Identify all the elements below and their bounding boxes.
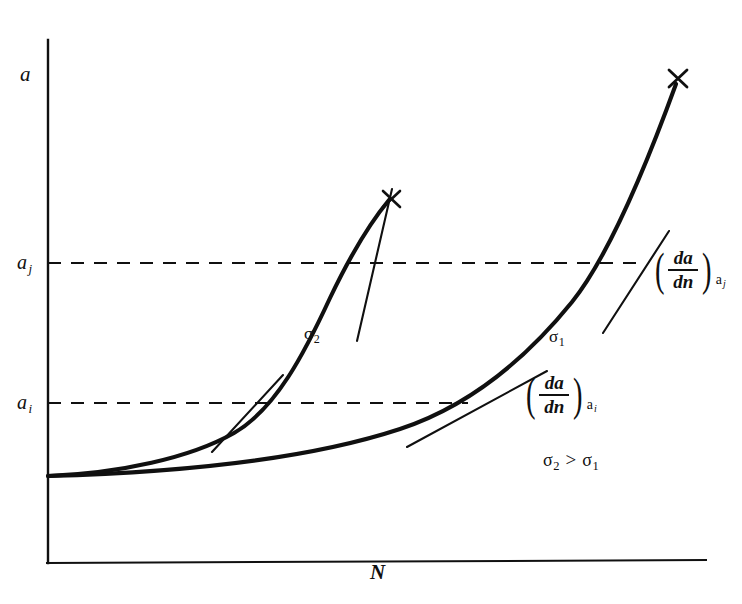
- derivative-subscript-ai-base: a: [587, 397, 593, 412]
- fraction-da-dn-ai: da dn: [538, 373, 570, 417]
- x-axis-label: N: [370, 562, 385, 583]
- derivative-subscript-aj-base: a: [716, 272, 722, 287]
- fraction-denominator-ai: dn: [543, 397, 565, 417]
- derivative-subscript-aj-sub: j: [722, 278, 726, 289]
- fraction-numerator-aj: da: [673, 248, 694, 268]
- derivative-subscript-ai-sub: i: [593, 403, 597, 414]
- curve-label-sigma1-base: σ: [549, 327, 558, 346]
- paren-close-ai: ): [573, 375, 583, 415]
- tick-label-ai-base: a: [17, 391, 27, 413]
- tick-label-aj-sub: j: [27, 261, 32, 276]
- tangent-sigma2-ai: [212, 375, 283, 452]
- fraction-denominator-aj: dn: [672, 272, 694, 292]
- tangent-sigma2-aj: [357, 189, 392, 341]
- fraction-da-dn-aj: da dn: [667, 248, 699, 292]
- derivative-subscript-ai: ai: [586, 397, 597, 417]
- inequality-left-base: σ: [543, 450, 553, 470]
- fraction-numerator-ai: da: [544, 373, 565, 393]
- tick-label-ai-sub: i: [27, 401, 32, 416]
- curve-label-sigma2: σ2: [304, 325, 320, 345]
- curve-label-sigma2-sub: 2: [313, 332, 320, 346]
- curve-label-sigma2-base: σ: [304, 324, 313, 343]
- tick-label-ai: ai: [17, 392, 32, 415]
- paren-close-aj: ): [702, 250, 712, 290]
- y-axis-label: a: [20, 64, 31, 85]
- inequality-note: σ2>σ1: [543, 450, 599, 472]
- tick-label-aj: aj: [17, 252, 32, 275]
- inequality-right-base: σ: [582, 450, 592, 470]
- curve-sigma2: [48, 200, 389, 476]
- derivative-subscript-aj: aj: [715, 272, 726, 292]
- curve-label-sigma1-sub: 1: [558, 335, 565, 349]
- paren-open-ai: (: [526, 375, 536, 415]
- inequality-operator: >: [559, 449, 582, 470]
- paren-open-aj: (: [655, 250, 665, 290]
- figure-canvas: a N aj ai σ2 σ1 ( da dn ) aj ( da dn ): [0, 0, 742, 604]
- derivative-label-aj: ( da dn ) aj: [652, 248, 726, 292]
- curve-label-sigma1: σ1: [549, 328, 565, 348]
- plot-svg: [0, 0, 742, 604]
- inequality-right-sub: 1: [592, 459, 599, 473]
- tick-label-aj-base: a: [17, 251, 27, 273]
- derivative-label-ai: ( da dn ) ai: [523, 373, 597, 417]
